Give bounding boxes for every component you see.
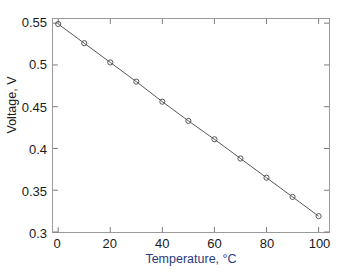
y-tick-label: 0.5: [29, 58, 47, 71]
y-tick-label: 0.4: [29, 142, 47, 155]
y-tick-label: 0.35: [22, 184, 47, 197]
x-tick-label: 80: [260, 237, 274, 250]
x-tick-label: 40: [155, 237, 169, 250]
series-line: [58, 24, 318, 216]
x-axis-tick-labels: 020406080100: [52, 237, 330, 253]
y-tick-label: 0.3: [29, 227, 47, 240]
x-tick-label: 100: [309, 237, 331, 250]
y-axis-title: Voltage, V: [5, 60, 19, 150]
plot-area: [52, 18, 330, 233]
chart-screenshot: 0.30.350.40.450.50.55 020406080100 Volta…: [0, 0, 348, 278]
x-tick-label: 20: [102, 237, 116, 250]
x-tick-label: 60: [207, 237, 221, 250]
y-tick-label: 0.55: [22, 16, 47, 29]
x-axis-title: Temperature, °C: [52, 252, 330, 266]
plot-svg: [53, 19, 329, 232]
y-tick-label: 0.45: [22, 100, 47, 113]
x-tick-label: 0: [54, 237, 61, 250]
data-series-group: [58, 24, 318, 216]
